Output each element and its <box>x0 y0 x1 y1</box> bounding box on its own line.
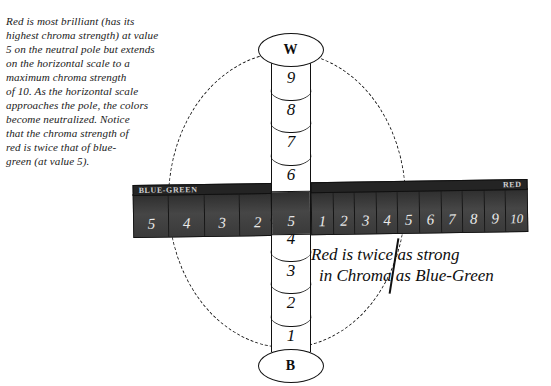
band-cell: 10 <box>506 189 527 231</box>
explanation-line: red is twice that of blue- <box>6 140 158 154</box>
horizontal-chroma-band: BLUE-GREEN RED 5 4 3 2 1 1 2 3 4 5 6 7 8… <box>133 188 529 238</box>
band-cell: 4 <box>169 194 205 237</box>
band-cell: 6 <box>420 190 442 232</box>
explanation-line: Red is most brilliant (has its <box>6 14 158 28</box>
explanation-line: green (at value 5). <box>6 154 158 168</box>
black-pole-cap: B <box>258 349 324 383</box>
white-pole-cap: W <box>258 33 324 67</box>
caption-line-1: Red is twice as strong <box>311 244 494 265</box>
handwritten-caption: Red is twice as strong in Chroma as Blue… <box>311 244 494 286</box>
band-cell: 5 <box>398 191 420 233</box>
explanation-line: maximum chroma strength <box>6 70 158 84</box>
explanation-line: become neutralized. Notice <box>6 112 158 126</box>
band-center-cell: 5 <box>271 191 312 236</box>
band-cell: 7 <box>441 190 463 232</box>
band-cell: 1 <box>312 192 334 234</box>
explanation-paragraph: Red is most brilliant (has its highest c… <box>6 14 158 168</box>
band-cell: 3 <box>355 191 377 233</box>
pole-cell: 1 <box>272 320 310 352</box>
explanation-line: that the chroma strength of <box>6 126 158 140</box>
explanation-line: 5 on the neutral pole but extends <box>6 42 158 56</box>
band-cell: 9 <box>484 189 506 231</box>
caption-line-2: in Chroma as Blue-Green <box>311 265 494 286</box>
pole-cell: 6 <box>272 159 310 191</box>
explanation-line: approaches the pole, the colors <box>6 98 158 112</box>
band-cell: 3 <box>204 193 240 236</box>
explanation-line: highest chroma strength) at value <box>6 28 158 42</box>
explanation-line: of 10. As the horizontal scale <box>6 84 158 98</box>
red-label: RED <box>498 180 527 189</box>
red-chroma-scale: 1 2 3 4 5 6 7 8 9 10 <box>311 188 529 235</box>
band-cell: 4 <box>376 191 398 233</box>
band-cell: 8 <box>463 190 485 232</box>
band-cell: 5 <box>134 195 170 238</box>
blue-green-label: BLUE-GREEN <box>134 185 203 195</box>
explanation-line: on the horizontal scale to a <box>6 56 158 70</box>
band-cell: 2 <box>333 192 355 234</box>
